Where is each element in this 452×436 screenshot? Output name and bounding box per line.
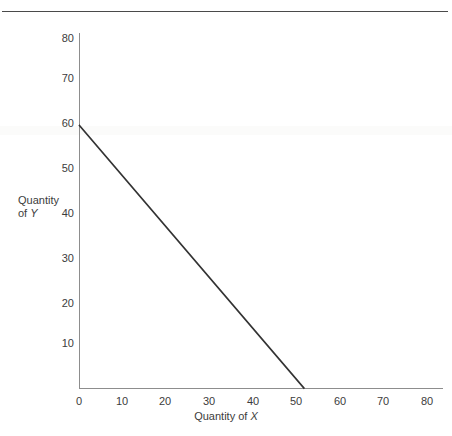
plot-data-layer (0, 0, 452, 436)
chart-figure: 80 70 60 50 40 30 20 10 0 10 20 30 40 50… (0, 0, 452, 436)
budget-constraint-line (80, 126, 304, 389)
